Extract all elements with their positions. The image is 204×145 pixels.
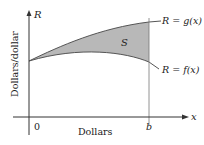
curve-label-g: R = g(x)	[161, 15, 202, 26]
y-axis-arrow-icon	[27, 10, 32, 16]
y-variable-label: R	[33, 9, 42, 20]
x-axis-arrow-icon	[182, 115, 189, 120]
curve-label-f: R = f(x)	[161, 64, 200, 75]
region-label-s: S	[121, 37, 128, 48]
diagram-canvas: R x S R = g(x) R = f(x) 0 b Dollars Doll…	[0, 0, 204, 145]
x-tick-b: b	[146, 121, 152, 132]
x-variable-label: x	[191, 111, 197, 122]
x-axis-title: Dollars	[78, 126, 113, 137]
x-tick-origin: 0	[34, 121, 40, 132]
y-axis-title: Dollars/dollar	[9, 31, 20, 97]
